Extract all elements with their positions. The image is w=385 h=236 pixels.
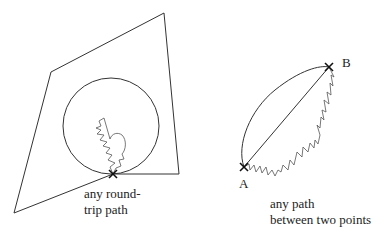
circle-path <box>63 78 159 174</box>
point-a-marker <box>240 163 248 171</box>
quadrilateral-path <box>14 13 179 213</box>
squiggle-loop-path <box>96 118 125 174</box>
right-caption-line2: between two points <box>270 212 371 227</box>
left-caption-line1: any round- <box>84 186 141 201</box>
diagram-canvas <box>0 0 385 236</box>
point-a-label: A <box>239 176 248 191</box>
point-b-label: B <box>342 55 351 70</box>
zigzag-path-ab <box>244 67 334 176</box>
left-caption-line2: trip path <box>84 202 128 217</box>
right-caption-line1: any path <box>270 196 314 211</box>
